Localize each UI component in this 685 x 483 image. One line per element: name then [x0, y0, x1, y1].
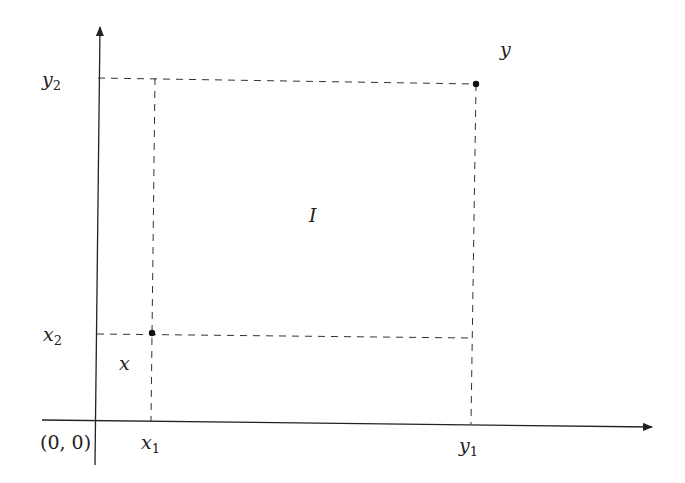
label-region-I: I	[308, 204, 317, 226]
y1-dashed-line	[471, 84, 476, 424]
x1-dashed-line	[151, 78, 155, 421]
label-origin: (0, 0)	[40, 431, 91, 453]
label-y1: y1	[458, 434, 478, 459]
point-x	[149, 330, 155, 336]
x-axis	[42, 420, 652, 427]
label-x-point: x	[119, 352, 130, 374]
label-x2: x2	[43, 323, 62, 348]
point-y	[473, 81, 479, 87]
label-x1: x1	[141, 431, 160, 456]
y-axis	[95, 27, 100, 465]
label-y-point: y	[499, 38, 511, 60]
label-y2: y2	[41, 68, 61, 93]
interval-diagram: y x I y2 x2 x1 y1 (0, 0)	[0, 0, 685, 483]
